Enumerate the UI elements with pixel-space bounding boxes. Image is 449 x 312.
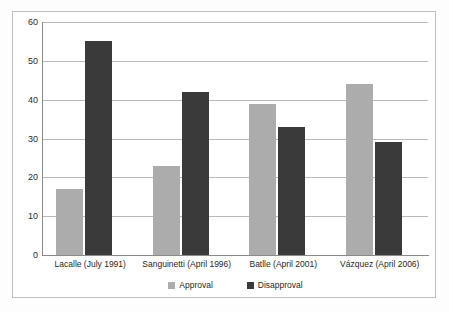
x-axis-line <box>42 255 429 256</box>
x-tick-label: Batlle (April 2001) <box>235 259 332 270</box>
y-tick-label-20: 20 <box>12 173 38 182</box>
x-axis-tick-labels: Lacalle (July 1991)Sanguinetti (April 19… <box>42 259 429 273</box>
bar-group <box>235 22 332 255</box>
y-tick-label-50: 50 <box>12 57 38 66</box>
y-tick-label-60: 60 <box>12 18 38 27</box>
y-axis-line <box>42 22 43 256</box>
legend-entry[interactable]: Approval <box>168 280 213 290</box>
legend-swatch-icon <box>168 282 175 289</box>
legend-label: Approval <box>179 280 213 290</box>
bar[interactable] <box>182 92 209 255</box>
bar-group <box>332 22 429 255</box>
legend-label: Disapproval <box>258 280 303 290</box>
bar[interactable] <box>249 104 276 255</box>
bar[interactable] <box>56 189 83 255</box>
bar[interactable] <box>346 84 373 255</box>
chart-legend: ApprovalDisapproval <box>42 278 429 292</box>
y-tick-label-0: 0 <box>12 251 38 260</box>
bar-group <box>42 22 139 255</box>
x-tick-label: Sanguinetti (April 1996) <box>139 259 236 270</box>
x-tick-label: Lacalle (July 1991) <box>42 259 139 270</box>
y-tick-label-40: 40 <box>12 96 38 105</box>
bar[interactable] <box>153 166 180 255</box>
y-tick-label-30: 30 <box>12 135 38 144</box>
y-tick-label-10: 10 <box>12 212 38 221</box>
legend-swatch-icon <box>247 282 254 289</box>
bar[interactable] <box>85 41 112 255</box>
x-tick-label: Vázquez (April 2006) <box>332 259 429 270</box>
y-axis-tick-labels: 6050403020100 <box>10 22 38 255</box>
plot-area <box>42 22 428 255</box>
bar-group <box>139 22 236 255</box>
figure-canvas: 6050403020100 Lacalle (July 1991)Sanguin… <box>0 0 449 312</box>
bar[interactable] <box>278 127 305 255</box>
bar[interactable] <box>375 142 402 255</box>
legend-entry[interactable]: Disapproval <box>247 280 303 290</box>
